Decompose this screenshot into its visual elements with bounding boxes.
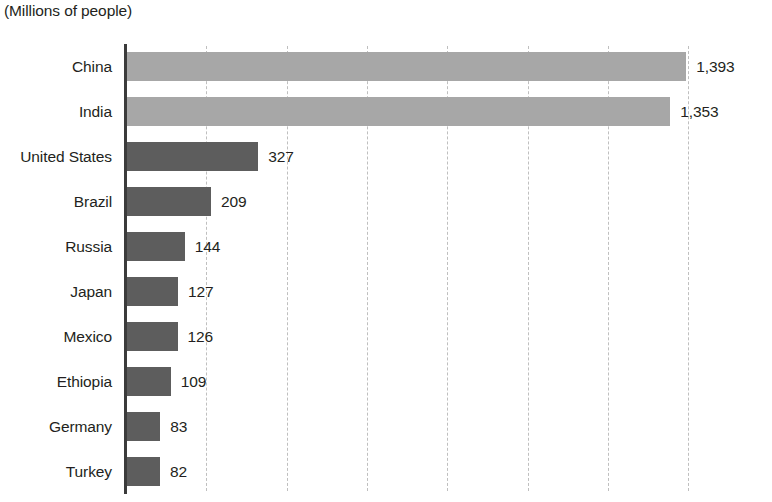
bar-row: Japan127 xyxy=(0,269,772,314)
bar-value-label: 109 xyxy=(181,367,207,396)
bar-row: Germany83 xyxy=(0,404,772,449)
bar-value-label: 1,393 xyxy=(696,52,734,81)
category-label: India xyxy=(0,89,112,134)
bar xyxy=(127,97,670,126)
bar-row: India1,353 xyxy=(0,89,772,134)
bar xyxy=(127,52,686,81)
bar xyxy=(127,187,211,216)
bar xyxy=(127,412,160,441)
bar-row: Turkey82 xyxy=(0,449,772,494)
bar-value-label: 327 xyxy=(268,142,294,171)
bar-row: Mexico126 xyxy=(0,314,772,359)
bar-row: United States327 xyxy=(0,134,772,179)
bar xyxy=(127,142,258,171)
category-label: Russia xyxy=(0,224,112,269)
bar-row: Ethiopia109 xyxy=(0,359,772,404)
category-label: Ethiopia xyxy=(0,359,112,404)
bar-value-label: 209 xyxy=(221,187,247,216)
bar-value-label: 83 xyxy=(170,412,187,441)
bar-value-label: 1,353 xyxy=(680,97,718,126)
bar xyxy=(127,322,178,351)
category-label: Turkey xyxy=(0,449,112,494)
bar xyxy=(127,367,171,396)
bar-value-label: 82 xyxy=(170,457,187,486)
bar xyxy=(127,457,160,486)
bar-value-label: 126 xyxy=(188,322,214,351)
bar xyxy=(127,277,178,306)
category-label: Mexico xyxy=(0,314,112,359)
bar-value-label: 127 xyxy=(188,277,214,306)
bar-chart: (Millions of people) China1,393India1,35… xyxy=(0,0,772,502)
category-label: Brazil xyxy=(0,179,112,224)
bar-row: China1,393 xyxy=(0,44,772,89)
bar-row: Brazil209 xyxy=(0,179,772,224)
category-label: United States xyxy=(0,134,112,179)
category-label: Germany xyxy=(0,404,112,449)
bar-row: Russia144 xyxy=(0,224,772,269)
plot-area: China1,393India1,353United States327Braz… xyxy=(0,0,772,502)
bar-value-label: 144 xyxy=(195,232,221,261)
category-label: China xyxy=(0,44,112,89)
bar xyxy=(127,232,185,261)
category-label: Japan xyxy=(0,269,112,314)
